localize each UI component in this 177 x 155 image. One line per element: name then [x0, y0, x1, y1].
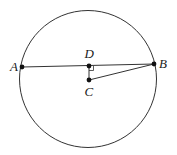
point-a — [20, 65, 25, 70]
label-c: C — [85, 84, 94, 99]
point-b — [152, 62, 157, 67]
label-a: A — [9, 59, 18, 74]
point-c — [87, 78, 92, 83]
label-d: D — [84, 46, 95, 61]
geometry-diagram: A B D C — [0, 0, 177, 155]
segment-cb — [89, 64, 154, 80]
label-b: B — [159, 56, 167, 71]
point-d — [87, 64, 92, 69]
